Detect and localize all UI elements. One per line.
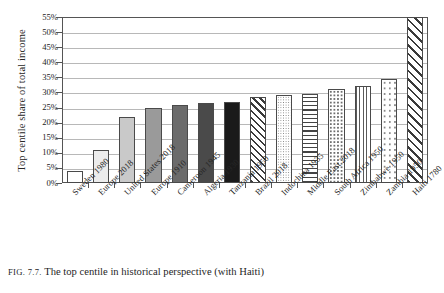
figure-caption: FIG. 7.7. The top centile in historical … bbox=[8, 266, 264, 277]
y-tick-label: 0% bbox=[26, 178, 58, 188]
x-tick-mark bbox=[140, 183, 141, 188]
y-tick-label: 15% bbox=[26, 132, 58, 142]
y-tick-label: 55% bbox=[26, 12, 58, 22]
x-tick-mark bbox=[88, 183, 89, 188]
x-tick-mark bbox=[376, 183, 377, 188]
y-tick-label: 30% bbox=[26, 87, 58, 97]
x-tick-mark bbox=[271, 183, 272, 188]
x-tick-mark bbox=[167, 183, 168, 188]
y-tick-label: 25% bbox=[26, 102, 58, 112]
x-tick-mark bbox=[193, 183, 194, 188]
figure-number: FIG. 7.7. bbox=[8, 267, 42, 277]
figure-caption-text: The top centile in historical perspectiv… bbox=[44, 266, 264, 277]
y-tick-mark bbox=[56, 183, 62, 184]
x-tick-mark bbox=[402, 183, 403, 188]
y-tick-label: 45% bbox=[26, 42, 58, 52]
y-tick-label: 20% bbox=[26, 117, 58, 127]
y-tick-label: 10% bbox=[26, 147, 58, 157]
x-tick-mark bbox=[219, 183, 220, 188]
x-tick-mark bbox=[297, 183, 298, 188]
x-tick-mark bbox=[350, 183, 351, 188]
x-tick-mark bbox=[245, 183, 246, 188]
y-axis-title: Top centile share of total income bbox=[16, 6, 27, 196]
x-tick-mark bbox=[323, 183, 324, 188]
y-tick-label: 40% bbox=[26, 57, 58, 67]
x-tick-mark bbox=[114, 183, 115, 188]
y-tick-label: 35% bbox=[26, 72, 58, 82]
y-tick-label: 50% bbox=[26, 27, 58, 37]
y-tick-label: 5% bbox=[26, 162, 58, 172]
